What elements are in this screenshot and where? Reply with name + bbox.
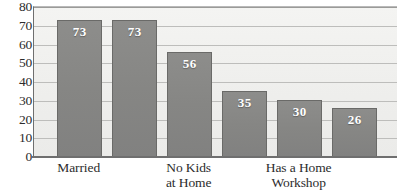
x-axis-line [32,156,397,158]
y-axis-tick-0: 0 [2,150,32,163]
bar-4: 35 [222,91,267,156]
bar-value-label: 30 [278,105,321,119]
y-axis-tick-20: 20 [2,113,32,126]
bar-5: 30 [277,100,322,156]
x-axis-label-no-kids-at-home: No Kids at Home [137,160,241,190]
plot-area: 73 73 56 35 30 26 [33,6,397,156]
y-axis-tick-10: 10 [2,131,32,144]
bar-value-label: 73 [58,25,101,39]
gridline-80 [34,7,397,8]
bar-value-label: 26 [333,113,376,127]
y-axis-tick-60: 60 [2,38,32,51]
y-axis-tick-80: 80 [2,0,32,13]
bar-2: 73 [112,20,157,156]
bar-no-kids-at-home: 56 [167,52,212,156]
bar-chart: 80 70 60 50 40 30 20 10 0 73 73 56 35 30 [0,0,401,193]
bar-value-label: 56 [168,57,211,71]
y-axis-tick-70: 70 [2,19,32,32]
x-axis-label-has-a-home-workshop: Has a Home Workshop [236,160,362,190]
bar-value-label: 35 [223,96,266,110]
y-axis-tick-30: 30 [2,94,32,107]
bar-6: 26 [332,108,377,156]
y-axis-tick-50: 50 [2,56,32,69]
y-axis-tick-40: 40 [2,75,32,88]
x-axis-label-married: Married [29,160,129,175]
bar-value-label: 73 [113,25,156,39]
bar-married: 73 [57,20,102,156]
